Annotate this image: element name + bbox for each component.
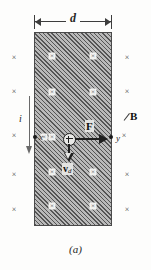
field-cross-icon: × xyxy=(123,171,131,179)
field-cross-icon: × xyxy=(10,206,18,214)
current-arrowhead-icon xyxy=(26,146,32,154)
drift-velocity-subscript: d xyxy=(68,167,72,175)
field-label-leader-line xyxy=(124,113,130,121)
field-cross-icon: × xyxy=(49,89,56,96)
field-cross-icon: × xyxy=(10,132,18,140)
arrowhead-left-icon xyxy=(35,18,41,26)
field-cross-icon: × xyxy=(49,169,56,176)
force-arrow-shaft xyxy=(75,138,101,140)
width-dimension: d xyxy=(34,14,112,32)
terminal-dot xyxy=(33,135,37,139)
field-cross-icon: × xyxy=(123,54,131,62)
dimension-tick-right xyxy=(111,15,112,29)
field-cross-icon: × xyxy=(10,171,18,179)
terminal-label-x: x xyxy=(39,132,43,142)
field-cross-icon: × xyxy=(10,54,18,62)
drift-velocity-arrowhead-fill xyxy=(65,153,71,159)
field-cross-icon: × xyxy=(49,203,56,210)
drift-velocity-label: vd xyxy=(62,163,73,175)
current-arrow-shaft xyxy=(29,96,30,148)
terminal-dot xyxy=(109,135,113,139)
force-label: F xyxy=(85,120,94,132)
terminal-label-y: y xyxy=(116,133,120,143)
field-cross-icon: × xyxy=(123,206,131,214)
field-cross-icon: × xyxy=(90,169,97,176)
conducting-strip xyxy=(34,32,112,226)
arrowhead-right-icon xyxy=(105,18,111,26)
field-cross-icon: × xyxy=(10,88,18,96)
field-cross-icon: × xyxy=(123,88,131,96)
field-cross-icon: × xyxy=(90,89,97,96)
field-cross-icon: × xyxy=(90,203,97,210)
figure-caption: (a) xyxy=(0,243,151,255)
field-cross-icon: × xyxy=(49,53,56,60)
force-arrowhead-icon xyxy=(99,134,108,144)
field-cross-icon: × xyxy=(120,132,128,140)
field-cross-icon: × xyxy=(49,134,56,141)
magnetic-field-label: B xyxy=(130,110,137,122)
field-cross-icon: × xyxy=(90,53,97,60)
hall-effect-figure: d ××××× ××××× ×××××××××× i xy F vd B (a) xyxy=(0,0,151,270)
width-label: d xyxy=(66,11,80,26)
current-label: i xyxy=(19,113,22,124)
